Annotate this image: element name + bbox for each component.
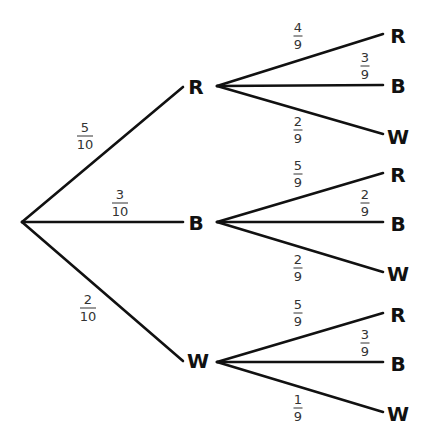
leaf-bw: W bbox=[387, 262, 409, 286]
prob-rw-denominator: 9 bbox=[294, 131, 302, 146]
prob-bb-denominator: 9 bbox=[361, 204, 369, 219]
leaf-bb: B bbox=[390, 212, 405, 236]
node-w: W bbox=[187, 349, 209, 373]
prob-rr-numerator: 4 bbox=[294, 20, 302, 35]
prob-b-denominator: 10 bbox=[112, 204, 129, 219]
prob-r-denominator: 10 bbox=[77, 137, 94, 152]
node-r: R bbox=[188, 75, 203, 99]
prob-rw-numerator: 2 bbox=[294, 114, 302, 129]
prob-ww-numerator: 1 bbox=[294, 392, 302, 407]
prob-bb-numerator: 2 bbox=[361, 187, 369, 202]
leaf-rb: B bbox=[390, 74, 405, 98]
leaf-ww: W bbox=[387, 402, 409, 426]
leaf-br: R bbox=[390, 163, 405, 187]
branch-r-to-b bbox=[217, 85, 383, 86]
prob-br-denominator: 9 bbox=[294, 175, 302, 190]
prob-rb-numerator: 3 bbox=[361, 50, 369, 65]
prob-w-numerator: 2 bbox=[84, 292, 92, 307]
leaf-rw: W bbox=[387, 125, 409, 149]
leaf-wr: R bbox=[390, 303, 405, 327]
node-b: B bbox=[188, 211, 203, 235]
prob-bw-numerator: 2 bbox=[294, 252, 302, 267]
prob-wr-numerator: 5 bbox=[294, 297, 302, 312]
prob-b-numerator: 3 bbox=[116, 187, 124, 202]
probability-tree-diagram: R510R49B39W29B310R59B29W29W210R59B39W19 bbox=[0, 0, 425, 440]
prob-w-denominator: 10 bbox=[80, 309, 97, 324]
prob-ww-denominator: 9 bbox=[294, 409, 302, 424]
prob-rr-denominator: 9 bbox=[294, 37, 302, 52]
prob-br-numerator: 5 bbox=[294, 158, 302, 173]
prob-bw-denominator: 9 bbox=[294, 269, 302, 284]
prob-wb-denominator: 9 bbox=[361, 344, 369, 359]
prob-wr-denominator: 9 bbox=[294, 314, 302, 329]
prob-rb-denominator: 9 bbox=[361, 67, 369, 82]
leaf-wb: B bbox=[390, 352, 405, 376]
branch-root-to-w bbox=[22, 222, 183, 361]
prob-wb-numerator: 3 bbox=[361, 327, 369, 342]
prob-r-numerator: 5 bbox=[81, 120, 89, 135]
branch-root-to-r bbox=[22, 87, 183, 222]
leaf-rr: R bbox=[390, 24, 405, 48]
